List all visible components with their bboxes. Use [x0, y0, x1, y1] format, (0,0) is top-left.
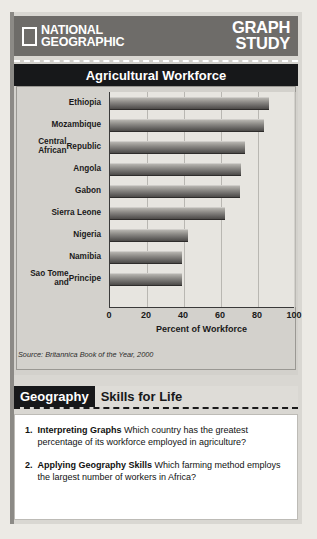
feature-title: GRAPH STUDY: [232, 20, 290, 51]
bar: [110, 229, 188, 242]
graph-study-page: NATIONAL GEOGRAPHIC GRAPH STUDY Agricult…: [0, 0, 317, 539]
bar-row: [110, 92, 294, 114]
category-label: Namibia: [14, 246, 105, 268]
bar-row: [110, 246, 294, 268]
bar-row: [110, 114, 294, 136]
bar: [110, 97, 269, 110]
brand-wordmark: NATIONAL GEOGRAPHIC: [41, 24, 124, 49]
chart-title: Agricultural Workforce: [14, 64, 298, 86]
plot-area: [109, 92, 294, 308]
brand-line-2: GEOGRAPHIC: [41, 36, 124, 48]
category-label: Gabon: [14, 180, 105, 202]
gridline: [295, 92, 296, 307]
chart-block: Agricultural Workforce EthiopiaMozambiqu…: [14, 60, 298, 375]
question-number: 1.: [25, 425, 33, 449]
x-tick-label: 100: [286, 310, 301, 320]
bar: [110, 185, 240, 198]
question-number: 2.: [25, 460, 33, 484]
bar-row: [110, 158, 294, 180]
questions-panel: 1.Interpreting Graphs Which country has …: [14, 414, 298, 520]
bar-row: [110, 224, 294, 246]
plot-wrapper: EthiopiaMozambiqueCentral AfricanRepubli…: [14, 88, 298, 340]
category-label: Mozambique: [14, 114, 105, 136]
bar: [110, 251, 182, 264]
feature-line-2: STUDY: [232, 36, 290, 52]
banner-geography-label: Geography: [14, 386, 95, 407]
question-skill-label: Applying Geography Skills: [38, 460, 153, 470]
x-tick-label: 40: [178, 310, 188, 320]
geography-skills-banner: Geography Skills for Life: [14, 386, 298, 409]
bar: [110, 273, 182, 286]
chart-source: Source: Britannica Book of the Year, 200…: [18, 350, 294, 359]
bar-row: [110, 136, 294, 158]
question-item: 1.Interpreting Graphs Which country has …: [25, 425, 285, 449]
bar: [110, 119, 264, 132]
category-label-column: EthiopiaMozambiqueCentral AfricanRepubli…: [14, 92, 105, 290]
bar: [110, 163, 241, 176]
question-body: Interpreting Graphs Which country has th…: [38, 425, 285, 449]
x-tick-label: 80: [252, 310, 262, 320]
x-tick-label: 20: [141, 310, 151, 320]
national-geographic-rectangle-icon: [22, 27, 37, 46]
bar-row: [110, 202, 294, 224]
x-axis-label: Percent of Workforce: [109, 324, 294, 334]
category-label: Sao Tome andPrincipe: [14, 268, 105, 290]
bar: [110, 141, 245, 154]
x-axis-ticks: 020406080100: [109, 310, 294, 324]
bar: [110, 207, 225, 220]
bar-row: [110, 180, 294, 202]
category-label: Angola: [14, 158, 105, 180]
banner-skills-label: Skills for Life: [95, 386, 298, 407]
x-tick-label: 60: [215, 310, 225, 320]
question-item: 2.Applying Geography Skills Which farmin…: [25, 460, 285, 484]
national-geographic-logo: NATIONAL GEOGRAPHIC: [22, 24, 124, 49]
category-label: Nigeria: [14, 224, 105, 246]
question-skill-label: Interpreting Graphs: [38, 425, 122, 435]
category-label: Ethiopia: [14, 92, 105, 114]
question-body: Applying Geography Skills Which farming …: [38, 460, 285, 484]
bar-row: [110, 268, 294, 290]
page-header: NATIONAL GEOGRAPHIC GRAPH STUDY: [14, 16, 298, 56]
bar-series: [110, 92, 294, 307]
category-label: Sierra Leone: [14, 202, 105, 224]
x-tick-label: 0: [106, 310, 111, 320]
category-label: Central AfricanRepublic: [14, 136, 105, 158]
